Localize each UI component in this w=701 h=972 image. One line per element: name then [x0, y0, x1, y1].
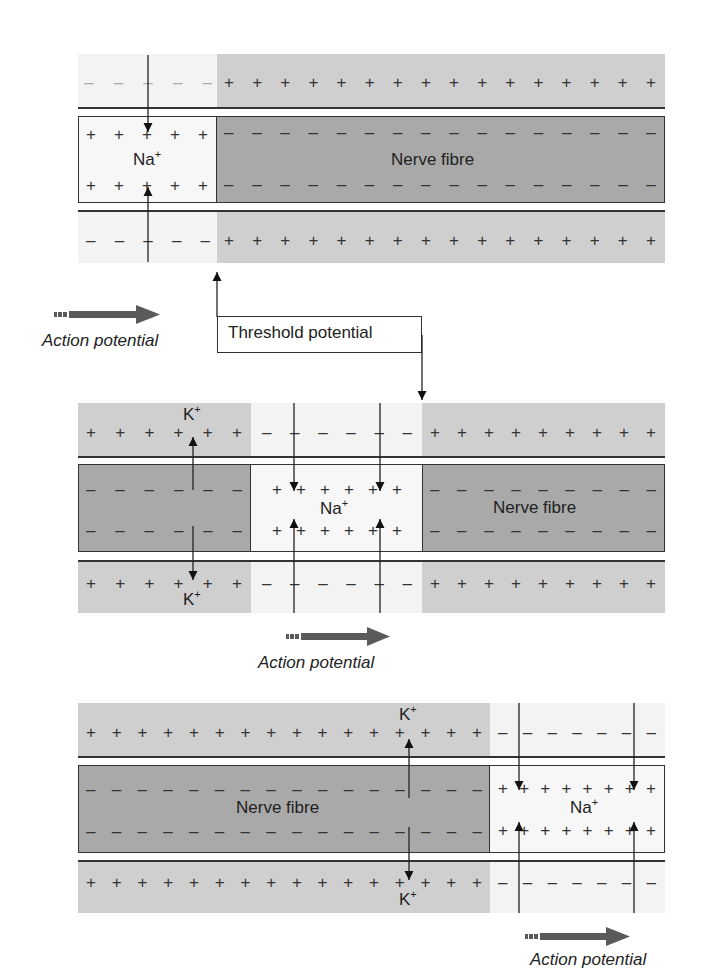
action-potential-arrow-2	[286, 627, 390, 646]
p3-na-influx-arrows	[519, 703, 634, 913]
p2-na-influx-arrows	[294, 403, 380, 613]
action-potential-arrow-1	[54, 305, 160, 324]
threshold-connector-arrows	[217, 272, 422, 400]
action-potential-arrow-3	[525, 927, 630, 946]
arrows-overlay	[0, 0, 701, 972]
